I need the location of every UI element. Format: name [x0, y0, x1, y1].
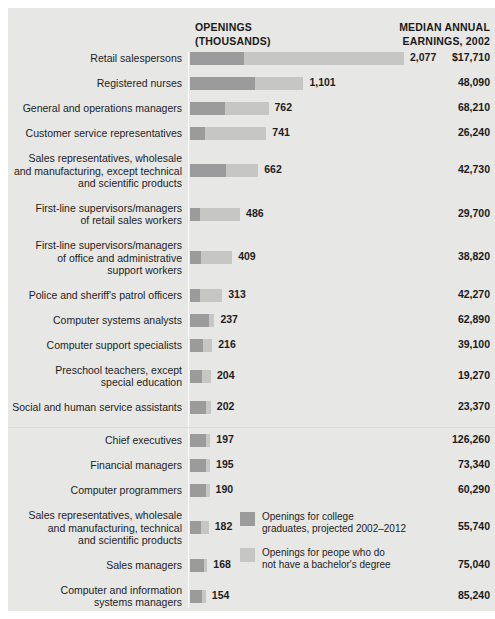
- stacked-bar[interactable]: [190, 289, 222, 302]
- stacked-bar[interactable]: [190, 459, 210, 472]
- row-label-line: of retail sales workers: [8, 214, 182, 227]
- legend-label: Openings for collegegraduates, projected…: [262, 511, 420, 535]
- bar-segment-noncollege: [202, 370, 211, 383]
- openings-value: 195: [216, 458, 234, 470]
- chart-row[interactable]: Financial managers19573,340: [8, 459, 495, 472]
- openings-header-line1: OPENINGS: [195, 20, 345, 34]
- median-earnings-value: 42,270: [338, 288, 490, 300]
- row-label-line: Financial managers: [8, 459, 182, 472]
- openings-value: 197: [216, 433, 234, 445]
- stacked-bar[interactable]: [190, 208, 240, 221]
- bar-segment-college: [190, 314, 209, 327]
- median-earnings-value: 48,090: [338, 76, 490, 88]
- row-label-line: systems managers: [8, 596, 182, 609]
- row-label: Computer support specialists: [8, 339, 182, 352]
- stacked-bar[interactable]: [190, 77, 303, 90]
- median-earnings-value: 39,100: [338, 338, 490, 350]
- stacked-bar[interactable]: [190, 370, 211, 383]
- bar-segment-noncollege: [206, 459, 210, 472]
- chart-row[interactable]: Computer support specialists21639,100: [8, 339, 495, 352]
- openings-value: 409: [238, 250, 256, 262]
- legend-label-line: graduates, projected 2002–2012: [262, 523, 420, 535]
- bar-segment-noncollege: [206, 484, 210, 497]
- stacked-bar[interactable]: [190, 339, 212, 352]
- chart-page: OPENINGS (THOUSANDS) MEDIAN ANNUAL EARNI…: [0, 0, 495, 619]
- chart-row[interactable]: Computer and informationsystems managers…: [8, 584, 495, 609]
- median-earnings-value: 73,340: [338, 458, 490, 470]
- bar-segment-college: [190, 127, 205, 140]
- row-label: Social and human service assistants: [8, 401, 182, 414]
- bar-segment-college: [190, 339, 203, 352]
- row-label-line: Social and human service assistants: [8, 401, 182, 414]
- chart-row[interactable]: Registered nurses1,10148,090: [8, 77, 495, 90]
- chart-row[interactable]: Police and sheriff's patrol officers3134…: [8, 289, 495, 302]
- stacked-bar[interactable]: [190, 521, 209, 534]
- chart-row[interactable]: First-line supervisors/managersof office…: [8, 239, 495, 277]
- row-label-line: and manufacturing, technical: [8, 522, 182, 535]
- stacked-bar[interactable]: [190, 314, 214, 327]
- bar-segment-noncollege: [204, 559, 208, 572]
- openings-value: 216: [218, 338, 236, 350]
- bar-segment-college: [190, 164, 226, 177]
- earnings-header-line1: MEDIAN ANNUAL: [338, 20, 490, 34]
- chart-row[interactable]: Customer service representatives74126,24…: [8, 127, 495, 140]
- chart-panel: OPENINGS (THOUSANDS) MEDIAN ANNUAL EARNI…: [8, 8, 495, 611]
- stacked-bar[interactable]: [190, 484, 210, 497]
- median-earnings-value: 42,730: [338, 163, 490, 175]
- median-earnings-value: 38,820: [338, 250, 490, 262]
- chart-row[interactable]: General and operations managers76268,210: [8, 102, 495, 115]
- bar-segment-college: [190, 484, 206, 497]
- legend-label: Openings for peope who donot have a bach…: [262, 547, 420, 571]
- chart-row[interactable]: Computer systems analysts23762,890: [8, 314, 495, 327]
- chart-row[interactable]: First-line supervisors/managersof retail…: [8, 202, 495, 227]
- legend-swatch: [240, 512, 255, 526]
- stacked-bar[interactable]: [190, 401, 211, 414]
- row-label-line: Computer and information: [8, 584, 182, 597]
- bar-segment-noncollege: [255, 77, 303, 90]
- stacked-bar[interactable]: [190, 590, 206, 603]
- bar-segment-noncollege: [226, 164, 258, 177]
- row-label-line: and scientific products: [8, 177, 182, 190]
- openings-header-line2: (THOUSANDS): [195, 34, 345, 48]
- chart-row[interactable]: Chief executives197126,260: [8, 434, 495, 447]
- row-label: Computer and informationsystems managers: [8, 584, 182, 609]
- chart-row[interactable]: Preschool teachers, exceptspecial educat…: [8, 364, 495, 389]
- bar-segment-college: [190, 52, 244, 65]
- row-label-line: First-line supervisors/managers: [8, 239, 182, 252]
- bar-segment-noncollege: [206, 401, 211, 414]
- median-earnings-value: 85,240: [338, 589, 490, 601]
- median-earnings-value: 26,240: [338, 126, 490, 138]
- chart-row[interactable]: Social and human service assistants20223…: [8, 401, 495, 414]
- stacked-bar[interactable]: [190, 434, 210, 447]
- row-label: Computer systems analysts: [8, 314, 182, 327]
- openings-column-header: OPENINGS (THOUSANDS): [195, 20, 345, 48]
- bar-segment-college: [190, 434, 206, 447]
- chart-row[interactable]: Computer programmers19060,290: [8, 484, 495, 497]
- bar-segment-college: [190, 289, 200, 302]
- openings-value: 762: [275, 101, 293, 113]
- median-earnings-value: 60,290: [338, 483, 490, 495]
- stacked-bar[interactable]: [190, 251, 232, 264]
- bar-segment-college: [190, 459, 206, 472]
- row-label-line: of office and administrative: [8, 252, 182, 265]
- legend-label-line: Openings for college: [262, 511, 420, 523]
- group-separator: [8, 427, 495, 428]
- bar-segment-noncollege: [203, 339, 212, 352]
- stacked-bar[interactable]: [190, 102, 269, 115]
- openings-value: 182: [215, 520, 233, 532]
- stacked-bar[interactable]: [190, 559, 207, 572]
- chart-row[interactable]: Retail salespersons2,077$17,710: [8, 52, 495, 65]
- openings-value: 202: [217, 400, 235, 412]
- row-label: Customer service representatives: [8, 127, 182, 140]
- row-label-line: Police and sheriff's patrol officers: [8, 289, 182, 302]
- legend-swatch: [240, 548, 255, 562]
- row-label: Preschool teachers, exceptspecial educat…: [8, 364, 182, 389]
- legend-label-line: Openings for peope who do: [262, 547, 420, 559]
- stacked-bar[interactable]: [190, 164, 258, 177]
- stacked-bar[interactable]: [190, 127, 266, 140]
- row-label: Sales managers: [8, 559, 182, 572]
- row-label-line: Customer service representatives: [8, 127, 182, 140]
- median-earnings-value: 19,270: [338, 369, 490, 381]
- chart-row[interactable]: Sales representatives, wholesaleand manu…: [8, 152, 495, 190]
- row-label: Chief executives: [8, 434, 182, 447]
